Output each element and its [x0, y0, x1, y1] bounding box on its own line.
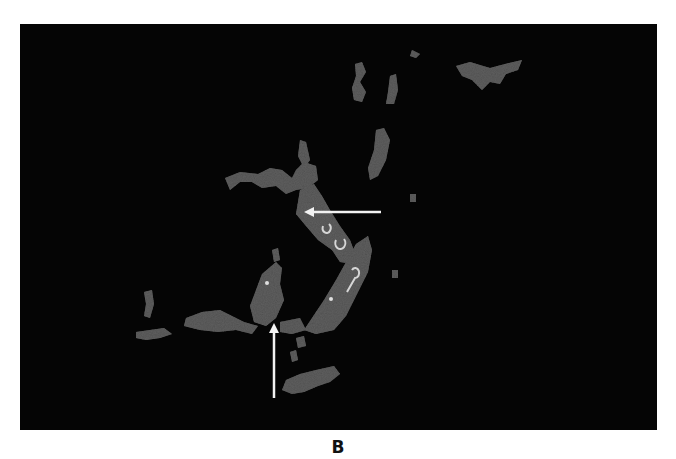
micrograph-panel: [20, 24, 657, 430]
panel-label: B: [0, 437, 676, 457]
arrow-up: [269, 323, 279, 398]
micrograph-image: [20, 24, 657, 430]
signal-regions: [136, 50, 522, 394]
